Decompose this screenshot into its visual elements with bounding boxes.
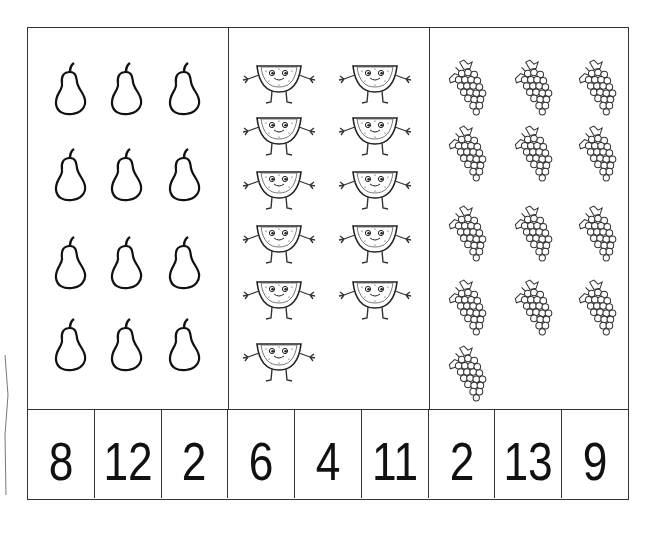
paper-edge-mark (2, 355, 12, 495)
grapes-icon (574, 204, 622, 266)
pear-icon (164, 234, 204, 294)
grapes-icon (510, 58, 558, 120)
grapes-icon (444, 58, 492, 120)
pear-icon (106, 146, 146, 206)
pear-icon (164, 60, 204, 120)
watermelon-character-icon (335, 62, 415, 116)
grapes-icon (444, 278, 492, 340)
number-cell[interactable]: 11 (361, 410, 428, 498)
grapes-icon (510, 124, 558, 186)
number-cell[interactable]: 2 (428, 410, 495, 498)
pear-icon (164, 316, 204, 376)
panel-pears (28, 28, 228, 409)
number-cell[interactable]: 6 (227, 410, 294, 498)
panel-watermelons (228, 28, 429, 409)
grapes-icon (574, 124, 622, 186)
number-row: 8 12 2 6 4 11 2 13 9 (28, 410, 628, 498)
watermelon-character-icon (239, 222, 319, 276)
pear-icon (106, 316, 146, 376)
grapes-icon (510, 204, 558, 266)
pear-icon (106, 60, 146, 120)
grapes-icon (444, 204, 492, 266)
grapes-icon (574, 278, 622, 340)
number-cell[interactable]: 8 (28, 410, 94, 498)
grapes-icon (510, 278, 558, 340)
number-cell[interactable]: 9 (561, 410, 628, 498)
watermelon-character-icon (239, 62, 319, 116)
fruit-panels (28, 28, 628, 410)
watermelon-character-icon (335, 278, 415, 332)
pear-icon (50, 60, 90, 120)
grapes-icon (444, 124, 492, 186)
panel-grapes (429, 28, 628, 409)
watermelon-character-icon (239, 114, 319, 168)
number-cell[interactable]: 2 (161, 410, 228, 498)
number-cell[interactable]: 12 (94, 410, 161, 498)
pear-icon (50, 146, 90, 206)
pear-icon (106, 234, 146, 294)
watermelon-character-icon (239, 340, 319, 394)
watermelon-character-icon (239, 168, 319, 222)
watermelon-character-icon (239, 278, 319, 332)
counting-worksheet: 8 12 2 6 4 11 2 13 9 (27, 27, 629, 500)
grapes-icon (444, 344, 492, 406)
watermelon-character-icon (335, 114, 415, 168)
number-cell[interactable]: 13 (494, 410, 561, 498)
number-cell[interactable]: 4 (294, 410, 361, 498)
pear-icon (50, 316, 90, 376)
watermelon-character-icon (335, 168, 415, 222)
grapes-icon (574, 58, 622, 120)
pear-icon (50, 234, 90, 294)
pear-icon (164, 146, 204, 206)
watermelon-character-icon (335, 222, 415, 276)
